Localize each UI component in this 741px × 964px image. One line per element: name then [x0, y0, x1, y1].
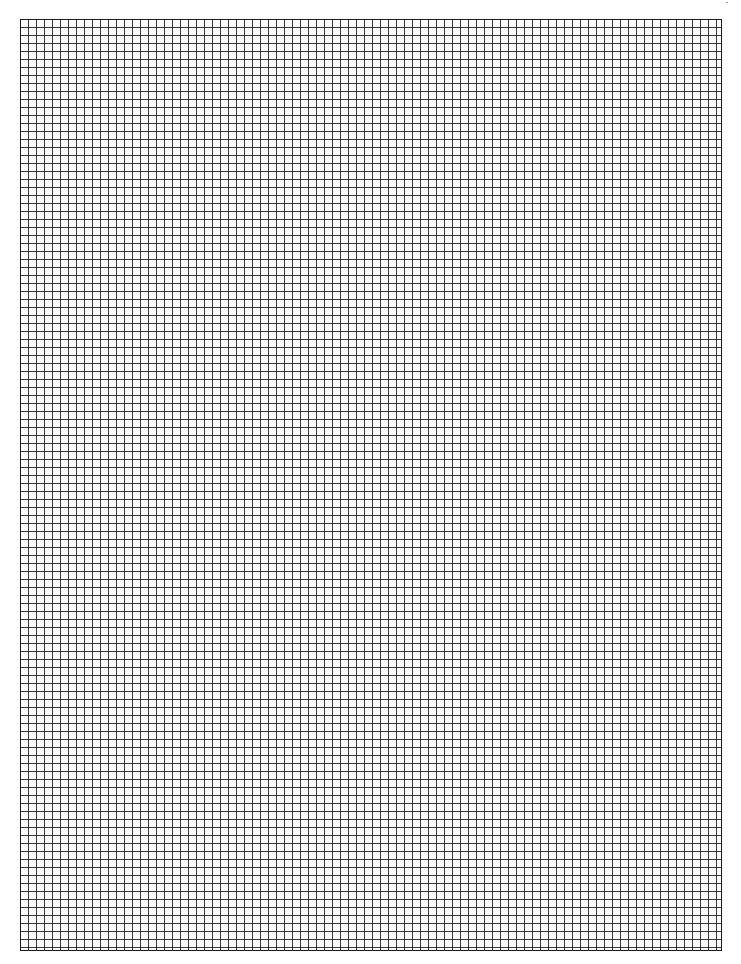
graph-paper-page [0, 0, 741, 964]
scan-speck [726, 2, 728, 3]
grid-lines [20, 19, 722, 951]
